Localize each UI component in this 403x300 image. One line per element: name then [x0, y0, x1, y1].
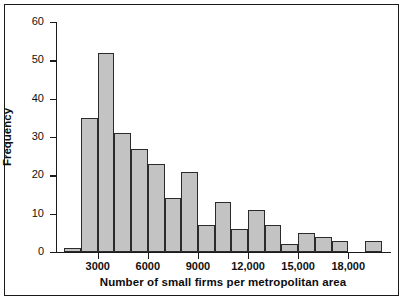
histogram-bar — [81, 118, 98, 252]
plot-area — [56, 22, 390, 252]
histogram-bar — [165, 198, 182, 252]
y-tick-label: 60 — [4, 16, 44, 27]
x-tick-label: 6000 — [136, 261, 160, 272]
histogram-bar — [148, 164, 165, 252]
histogram-bar — [215, 202, 232, 252]
y-tick-label: 10 — [4, 208, 44, 219]
histogram-bar — [281, 244, 298, 252]
x-axis-line — [56, 252, 391, 253]
x-tick-mark — [298, 253, 299, 259]
x-tick-mark — [98, 253, 99, 259]
y-axis-title: Frequency — [2, 108, 14, 166]
y-tick-label: 20 — [4, 169, 44, 180]
histogram-bar — [248, 210, 265, 252]
y-tick-label: 0 — [4, 246, 44, 257]
x-tick-label: 18,000 — [331, 261, 365, 272]
y-tick-label: 40 — [4, 93, 44, 104]
x-axis-title: Number of small firms per metropolitan a… — [56, 277, 390, 289]
histogram-bar — [181, 172, 198, 253]
histogram-figure: 0102030405060 30006000900012,00015,00018… — [0, 0, 403, 300]
histogram-bar — [198, 225, 215, 252]
x-tick-mark — [198, 253, 199, 259]
histogram-bar — [265, 225, 282, 252]
histogram-bar — [131, 149, 148, 253]
x-tick-mark — [148, 253, 149, 259]
x-tick-label: 3000 — [86, 261, 110, 272]
y-tick-mark — [50, 252, 56, 253]
histogram-bar — [98, 53, 115, 252]
x-tick-mark — [248, 253, 249, 259]
histogram-bar — [114, 133, 131, 252]
x-tick-label: 12,000 — [231, 261, 265, 272]
histogram-bar — [298, 233, 315, 252]
histogram-bar — [365, 241, 382, 253]
x-tick-label: 15,000 — [281, 261, 315, 272]
histogram-bar — [64, 248, 81, 252]
histogram-bar — [332, 241, 349, 253]
histogram-bar — [315, 237, 332, 252]
histogram-bars — [56, 22, 390, 252]
x-tick-mark — [348, 253, 349, 259]
x-tick-label: 9000 — [186, 261, 210, 272]
y-tick-label: 50 — [4, 54, 44, 65]
histogram-bar — [231, 229, 248, 252]
